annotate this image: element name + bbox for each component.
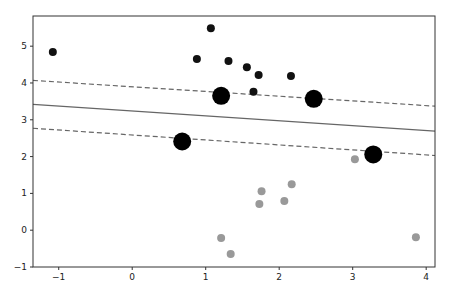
x-tick-label: −1 [52, 272, 65, 282]
class-black-point [224, 57, 232, 65]
svm-scatter-chart: −101234 −1012345 [0, 0, 450, 296]
x-tick-label: 3 [350, 272, 356, 282]
decision-boundary-line [33, 104, 435, 131]
y-tick-label: 3 [21, 115, 27, 125]
x-tick-label: 4 [423, 272, 429, 282]
y-tick-label: 5 [21, 41, 27, 51]
class-gray-point [280, 197, 288, 205]
class-gray-point [217, 234, 225, 242]
class-gray-point [255, 200, 263, 208]
class-gray-point [227, 250, 235, 258]
y-axis: −1012345 [14, 41, 33, 272]
class-black-point [193, 55, 201, 63]
class-gray-point [351, 155, 359, 163]
class-black-point [49, 48, 57, 56]
class-gray-point [412, 233, 420, 241]
support-vectors-point [305, 90, 323, 108]
class-black-point [207, 24, 215, 32]
class-gray-point [258, 187, 266, 195]
y-tick-label: 4 [21, 78, 27, 88]
support-vectors-point [173, 133, 191, 151]
y-tick-label: 1 [21, 188, 27, 198]
margin-upper-line [33, 80, 435, 106]
support-vectors-point [364, 145, 382, 163]
y-tick-label: 2 [21, 152, 27, 162]
class-black-point [255, 71, 263, 79]
margin-lines [33, 80, 435, 155]
class-black-point [249, 88, 257, 96]
class-gray-point [288, 180, 296, 188]
support-vectors-point [212, 87, 230, 105]
y-tick-label: −1 [14, 262, 27, 272]
class-black-point [287, 72, 295, 80]
y-tick-label: 0 [21, 225, 27, 235]
x-tick-label: 2 [276, 272, 282, 282]
class-black-point [243, 63, 251, 71]
x-axis: −101234 [52, 267, 429, 282]
x-tick-label: 0 [129, 272, 135, 282]
data-points [49, 24, 420, 258]
x-tick-label: 1 [203, 272, 209, 282]
